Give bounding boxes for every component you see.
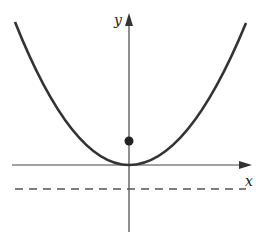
y-axis-arrow-icon (125, 13, 133, 26)
x-axis-arrow-icon (239, 161, 252, 169)
focus-point (125, 137, 134, 146)
parabola-diagram (0, 0, 256, 234)
y-axis-label: y (114, 13, 122, 27)
x-axis-label: x (245, 174, 253, 188)
